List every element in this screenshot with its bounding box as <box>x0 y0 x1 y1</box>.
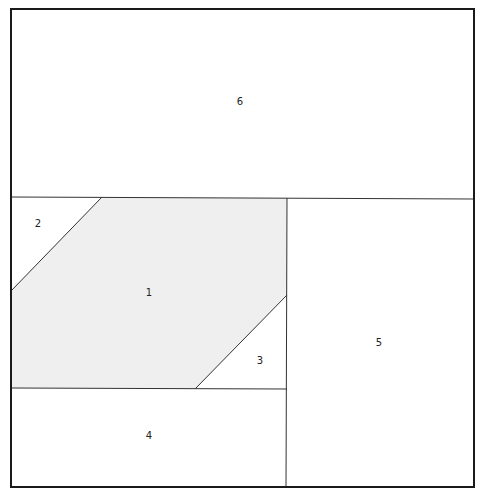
region-label-4: 4 <box>146 431 152 441</box>
region-label-6: 6 <box>237 97 243 107</box>
region-label-1: 1 <box>146 288 152 298</box>
region-label-3: 3 <box>257 356 263 366</box>
region-label-2: 2 <box>35 219 41 229</box>
region-label-5: 5 <box>376 338 382 348</box>
divider-bottom <box>11 388 287 389</box>
partition-diagram <box>0 0 481 498</box>
